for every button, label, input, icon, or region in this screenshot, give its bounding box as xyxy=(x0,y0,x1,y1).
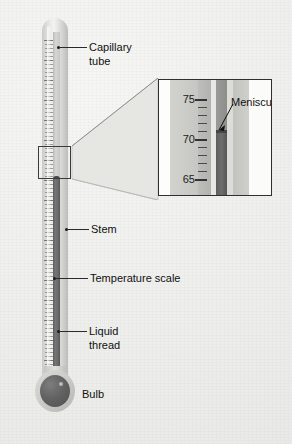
diagram-canvas: 75 70 65 Meniscus Capillary tube Stem Te… xyxy=(0,0,292,444)
liquid-thread xyxy=(53,178,60,390)
bulb-liquid xyxy=(40,375,70,407)
magnified-inset-panel: 75 70 65 Meniscus xyxy=(158,79,272,196)
bulb-highlight xyxy=(59,382,63,386)
label-stem: Stem xyxy=(91,223,117,237)
glass-highlight xyxy=(47,26,51,382)
label-liquid-thread: Liquid thread xyxy=(89,325,120,353)
meniscus-label: Meniscus xyxy=(231,96,272,108)
label-bulb: Bulb xyxy=(82,388,104,402)
thermometer xyxy=(42,18,68,418)
stem-leader xyxy=(67,229,89,230)
magnifier-callout-box xyxy=(38,146,71,179)
capillary-tube-leader xyxy=(59,47,87,48)
label-capillary-tube: Capillary tube xyxy=(89,41,132,69)
liquid-thread-leader xyxy=(59,331,87,332)
label-temperature-scale: Temperature scale xyxy=(90,272,181,286)
callout-wedge xyxy=(70,78,160,200)
temperature-scale-leader xyxy=(55,278,88,279)
